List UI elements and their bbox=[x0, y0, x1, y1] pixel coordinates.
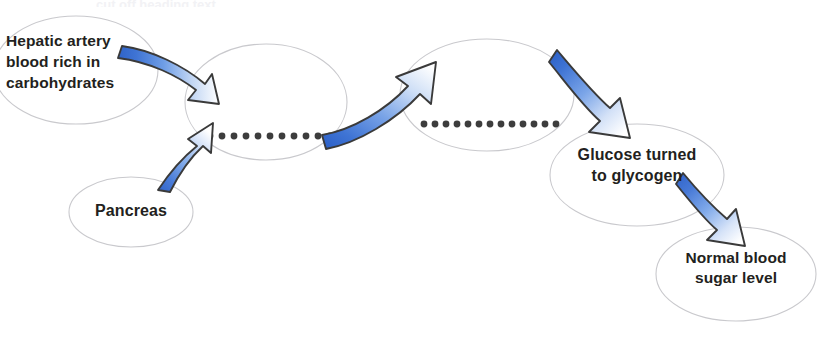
dotted-line-2 bbox=[421, 121, 560, 128]
arrow-middle1-to-middle2 bbox=[322, 62, 436, 149]
diagram-canvas bbox=[0, 0, 818, 343]
node-ellipses bbox=[0, 16, 816, 321]
dotted-line-1 bbox=[207, 133, 334, 140]
ellipse-pancreas bbox=[69, 177, 193, 247]
flow-diagram: cut off heading text bbox=[0, 0, 818, 343]
arrow-pancreas-to-middle1 bbox=[158, 123, 213, 192]
ellipse-hepatic-artery bbox=[0, 16, 158, 124]
